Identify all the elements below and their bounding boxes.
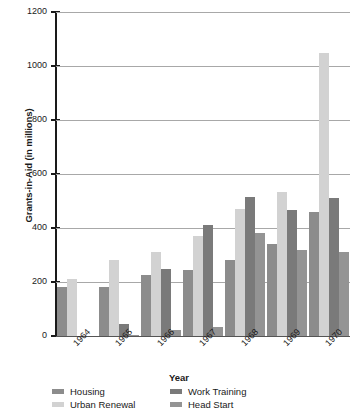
legend-swatch-icon (52, 402, 64, 407)
bar-group-1969 (266, 12, 308, 336)
legend-label: Head Start (188, 400, 233, 410)
bar-work-training-1969 (287, 210, 297, 336)
legend-swatch-icon (170, 402, 182, 407)
legend-item-housing[interactable]: Housing (52, 385, 170, 398)
bar-housing-1966 (141, 275, 151, 336)
bar-group-1970 (308, 12, 350, 336)
x-axis-title: Year (0, 372, 358, 383)
bar-housing-1967 (183, 270, 193, 336)
bar-housing-1964 (57, 287, 67, 336)
legend-label: Urban Renewal (70, 400, 135, 410)
bar-urban-renewal-1965 (109, 260, 119, 336)
legend-swatch-icon (52, 389, 64, 394)
y-axis-title: Grants-in-Aid (in millions) (23, 66, 34, 266)
bar-work-training-1970 (329, 198, 339, 336)
bar-urban-renewal-1964 (67, 279, 77, 336)
legend-item-urban-renewal[interactable]: Urban Renewal (52, 398, 170, 411)
chart-legend: HousingWork TrainingUrban RenewalHead St… (52, 385, 332, 411)
bar-housing-1969 (267, 244, 277, 336)
legend-item-work-training[interactable]: Work Training (170, 385, 320, 398)
bar-work-training-1967 (203, 225, 213, 336)
y-tick-label-200: 200 (7, 277, 47, 286)
bar-head-start-1970 (339, 252, 349, 336)
bar-group-1964 (56, 12, 98, 336)
legend-label: Housing (70, 387, 105, 397)
bar-urban-renewal-1970 (319, 53, 329, 337)
bar-group-1968 (224, 12, 266, 336)
bar-chart-figure: Grants-in-Aid (in millions) 020040060080… (0, 0, 358, 414)
legend-item-head-start[interactable]: Head Start (170, 398, 320, 411)
bar-urban-renewal-1969 (277, 192, 287, 336)
bar-work-training-1966 (161, 269, 171, 337)
bar-head-start-1969 (297, 250, 307, 336)
bar-group-1966 (140, 12, 182, 336)
y-tick-label-0: 0 (7, 331, 47, 340)
bar-group-1967 (182, 12, 224, 336)
plot-area (56, 12, 350, 336)
y-tick-label-400: 400 (7, 223, 47, 232)
y-tick-label-1000: 1000 (7, 61, 47, 70)
y-tick-label-600: 600 (7, 169, 47, 178)
legend-label: Work Training (188, 387, 246, 397)
bar-group-1965 (98, 12, 140, 336)
y-tick-label-1200: 1200 (7, 7, 47, 16)
bar-urban-renewal-1968 (235, 209, 245, 336)
bar-head-start-1968 (255, 233, 265, 336)
legend-swatch-icon (170, 389, 182, 394)
bar-urban-renewal-1966 (151, 252, 161, 336)
bar-housing-1965 (99, 287, 109, 336)
bar-work-training-1968 (245, 197, 255, 336)
bar-urban-renewal-1967 (193, 236, 203, 336)
y-tick-label-800: 800 (7, 115, 47, 124)
bar-housing-1970 (309, 212, 319, 336)
bar-housing-1968 (225, 260, 235, 336)
